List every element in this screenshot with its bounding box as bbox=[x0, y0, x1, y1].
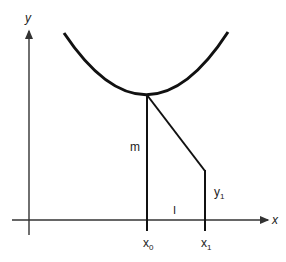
x-axis-label: x bbox=[271, 213, 279, 227]
m-label: m bbox=[130, 140, 140, 154]
y-axis-label: y bbox=[24, 11, 32, 25]
interval-label: I bbox=[173, 204, 176, 216]
y1-label: y1 bbox=[214, 185, 225, 201]
x1-label: x1 bbox=[201, 236, 212, 252]
diagram-svg: y x m y1 x0 x1 I bbox=[0, 0, 286, 262]
x0-label: x0 bbox=[143, 236, 154, 252]
slanted-line bbox=[147, 95, 205, 171]
parabola-curve bbox=[64, 32, 228, 95]
diagram-canvas: y x m y1 x0 x1 I bbox=[0, 0, 286, 262]
